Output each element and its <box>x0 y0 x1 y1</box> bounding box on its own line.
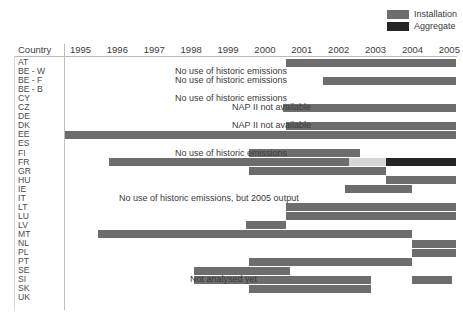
row-label-uk: UK <box>18 293 30 302</box>
vertical-axis-line <box>64 44 65 310</box>
annotation-4: NAP II not available <box>232 121 311 130</box>
bar-pt-installation <box>249 258 411 266</box>
bar-lt-installation <box>286 203 456 211</box>
legend-swatch-installation-icon <box>387 10 409 19</box>
year-tick-2002: 2002 <box>328 44 349 55</box>
year-tick-1999: 1999 <box>217 44 238 55</box>
header-rule <box>14 56 457 57</box>
year-tick-2000: 2000 <box>254 44 275 55</box>
bar-fr-installation <box>249 158 349 166</box>
bar-gr-installation <box>249 167 385 175</box>
bar-nl-installation <box>412 240 456 248</box>
bar-ie-installation <box>345 185 411 193</box>
bar-lv-installation <box>246 221 287 229</box>
bar-sk-installation <box>249 285 371 293</box>
country-column-header: Country <box>18 44 51 55</box>
year-tick-1997: 1997 <box>144 44 165 55</box>
bar-lu-installation <box>286 212 456 220</box>
year-tick-2001: 2001 <box>291 44 312 55</box>
year-tick-2003: 2003 <box>365 44 386 55</box>
legend-item-aggregate: Aggregate <box>387 22 457 31</box>
annotation-1: No use of historic emissions <box>175 76 287 85</box>
annotation-3: NAP II not available <box>232 103 311 112</box>
year-tick-2004: 2004 <box>402 44 423 55</box>
annotation-7: Not analysed yet <box>190 275 257 284</box>
legend-label-installation: Installation <box>414 10 457 19</box>
year-tick-1996: 1996 <box>107 44 128 55</box>
bar-pl-installation <box>412 249 456 257</box>
legend-swatch-aggregate-icon <box>387 22 409 31</box>
year-tick-1998: 1998 <box>181 44 202 55</box>
bar-at-installation <box>286 59 456 67</box>
bar-fr-light <box>349 158 386 166</box>
bar-si-installation <box>412 276 453 284</box>
legend-label-aggregate: Aggregate <box>414 22 456 31</box>
bar-bef-installation <box>323 77 456 85</box>
legend-item-installation: Installation <box>387 10 457 19</box>
bar-mt-installation <box>246 230 287 238</box>
year-tick-2005: 2005 <box>439 44 460 55</box>
bar-fr-aggregate <box>386 158 456 166</box>
gantt-chart: InstallationAggregate Country 1995199619… <box>0 0 463 318</box>
annotation-5: No use of historic emissions <box>175 149 287 158</box>
year-tick-1995: 1995 <box>70 44 91 55</box>
bar-dk-installation <box>286 122 456 130</box>
left-border-line <box>14 56 15 310</box>
bar-hu-installation <box>386 176 456 184</box>
bar-ee-installation <box>65 131 456 139</box>
annotation-6: No use of historic emissions, but 2005 o… <box>119 194 299 203</box>
chart-legend: InstallationAggregate <box>387 10 457 31</box>
bar-fr-installation <box>109 158 249 166</box>
